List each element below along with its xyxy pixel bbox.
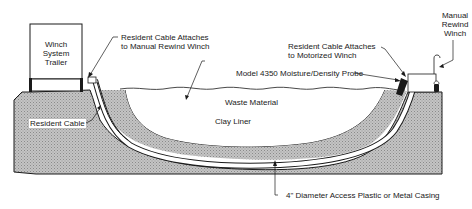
label-resident-cable: Resident Cable [29, 119, 86, 128]
casing-top-left [88, 77, 96, 83]
leader-motorized-winch [381, 47, 404, 74]
label-clay-liner: Clay Liner [215, 117, 251, 126]
label-line: Winch [438, 29, 472, 38]
label-cable-motorized: Resident Cable Attaches to Motorized Win… [288, 42, 376, 60]
label-winch-trailer: Winch System Trailer [30, 40, 82, 67]
arrowhead-resident-cable [97, 105, 101, 110]
label-line: to Manual Rewind Winch [121, 42, 209, 51]
manual-rewind-winch [434, 84, 439, 92]
label-probe: Model 4350 Moisture/Density Probe [236, 69, 363, 78]
manual-winch-hook [434, 55, 440, 74]
trailer-wheel-left [29, 78, 32, 92]
label-line: System [30, 49, 82, 58]
label-waste-material: Waste Material [225, 98, 278, 107]
label-casing: 4" Diameter Access Plastic or Metal Casi… [286, 191, 440, 200]
motorized-winch-housing [408, 74, 436, 92]
winch-trailer-base [30, 79, 82, 91]
label-cable-manual-rewind: Resident Cable Attaches to Manual Rewind… [121, 33, 209, 51]
leader-manual-rewind [90, 37, 118, 75]
label-line: Rewind [438, 20, 472, 29]
label-line: to Motorized Winch [288, 51, 376, 60]
label-line: Winch [30, 40, 82, 49]
label-line: Manual [438, 11, 472, 20]
label-manual-rewind-winch: Manual Rewind Winch [438, 11, 472, 38]
manual-winch-dome [434, 81, 439, 84]
label-line: Trailer [30, 58, 82, 67]
arrowhead-motorized [401, 71, 406, 77]
label-line: Resident Cable Attaches [121, 33, 209, 42]
trailer-wheel-right [80, 78, 83, 92]
leader-manual-winch [441, 40, 453, 66]
label-line: Resident Cable Attaches [288, 42, 376, 51]
